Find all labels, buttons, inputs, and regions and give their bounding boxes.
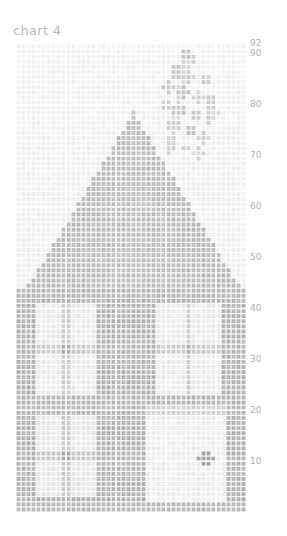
y-tick-label-30: 30: [250, 355, 261, 364]
y-tick-label-40: 40: [250, 304, 261, 313]
heatmap-plot-area[interactable]: [16, 44, 246, 512]
chart-page: chart 4 92 90 80 70 60 50 40 30 20 10: [0, 0, 287, 536]
y-tick-label-70: 70: [250, 151, 261, 160]
y-tick-label-50: 50: [250, 253, 261, 262]
y-tick-label-92: 92: [250, 39, 261, 48]
y-tick-label-10: 10: [250, 457, 261, 466]
heatmap-cells[interactable]: [16, 44, 246, 512]
y-tick-label-60: 60: [250, 202, 261, 211]
y-tick-label-80: 80: [250, 100, 261, 109]
y-axis: 92 90 80 70 60 50 40 30 20 10: [250, 44, 287, 512]
y-tick-label-90: 90: [250, 49, 261, 58]
y-tick-label-20: 20: [250, 406, 261, 415]
chart-title: chart 4: [13, 23, 61, 39]
